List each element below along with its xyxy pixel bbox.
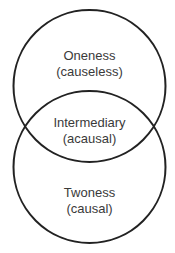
intermediary-label: Intermediary [53,115,126,130]
oneness-sublabel: (causeless) [56,64,122,79]
lower-circle-twoness [14,91,166,243]
twoness-sublabel: (causal) [66,201,112,216]
oneness-label: Oneness [63,48,116,63]
venn-diagram: Oneness (causeless) Intermediary (acausa… [0,0,175,253]
intermediary-sublabel: (acausal) [63,131,116,146]
twoness-label: Twoness [64,185,116,200]
